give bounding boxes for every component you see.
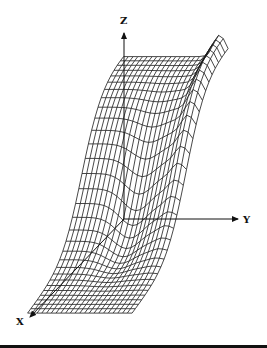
surface-plot: Z Y X — [0, 0, 267, 348]
y-axis-label: Y — [242, 214, 251, 225]
z-axis-label: Z — [120, 15, 127, 26]
x-axis-label: X — [16, 316, 24, 327]
wireframe-mesh — [28, 35, 229, 313]
